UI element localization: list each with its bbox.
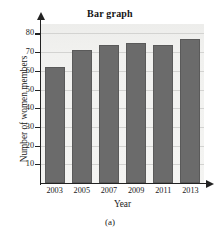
y-axis-line xyxy=(40,18,41,185)
y-tick-label: 70 xyxy=(16,47,34,56)
y-tick-mark xyxy=(35,108,41,109)
bar xyxy=(180,39,200,183)
y-tick-label: 80 xyxy=(16,28,34,37)
x-tick-label: 2005 xyxy=(68,186,95,195)
y-tick-mark xyxy=(35,90,41,91)
y-tick-mark xyxy=(35,71,41,72)
bar xyxy=(99,45,119,183)
y-tick-label: 40 xyxy=(16,103,34,112)
y-tick-label: 60 xyxy=(16,66,34,75)
y-tick-mark xyxy=(35,52,41,53)
y-tick-label: 10 xyxy=(16,159,34,168)
bar-graph-figure: Bar graph Number of women members 102030… xyxy=(0,0,220,236)
y-axis-tick-labels: 1020304050607080 xyxy=(12,0,34,236)
x-tick-label: 2013 xyxy=(177,186,204,195)
bar xyxy=(45,67,65,183)
y-tick-mark xyxy=(35,164,41,165)
x-tick-label: 2009 xyxy=(123,186,150,195)
x-axis-line xyxy=(40,183,208,184)
bar xyxy=(153,45,173,183)
x-axis-arrow-icon xyxy=(206,180,214,188)
gridline xyxy=(41,33,204,34)
bar xyxy=(72,50,92,183)
x-axis-label: Year xyxy=(41,199,204,209)
x-tick-label: 2007 xyxy=(95,186,122,195)
y-tick-mark xyxy=(35,146,41,147)
figure-caption: (a) xyxy=(0,217,220,227)
y-tick-label: 30 xyxy=(16,122,34,131)
y-tick-label: 20 xyxy=(16,141,34,150)
bar xyxy=(126,43,146,183)
x-tick-label: 2003 xyxy=(41,186,68,195)
x-tick-label: 2011 xyxy=(150,186,177,195)
plot-area xyxy=(41,24,204,183)
x-axis-tick-labels: 200320052007200920112013 xyxy=(41,186,204,200)
y-axis-arrow-icon xyxy=(37,12,45,20)
y-tick-label: 50 xyxy=(16,85,34,94)
y-tick-mark xyxy=(35,33,41,34)
y-tick-mark xyxy=(35,127,41,128)
